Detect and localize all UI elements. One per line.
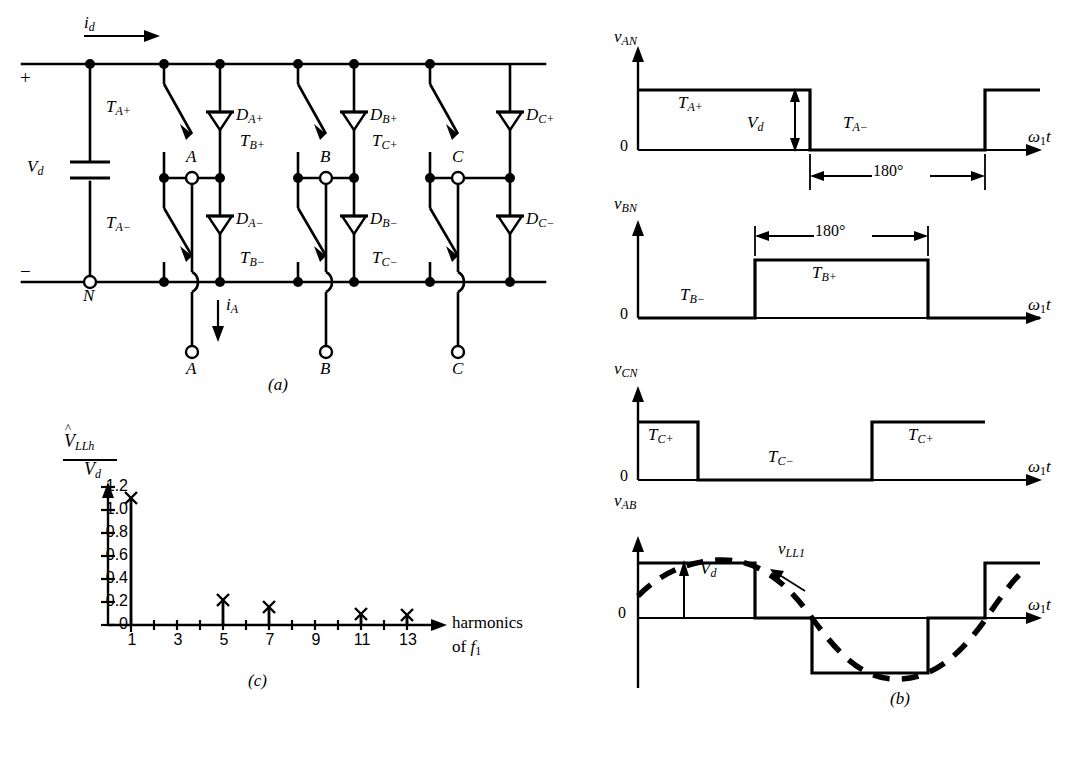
zero-label-vab: 0 xyxy=(618,605,626,621)
dimension-label-van: 180° xyxy=(873,163,903,179)
amplitude-label-vab: Vd xyxy=(700,560,716,579)
xaxis-label-vbn: ω1t xyxy=(1028,296,1051,315)
switch-label-tc-plus: TC+ xyxy=(372,132,398,151)
dc-voltage-label: Vd xyxy=(27,158,43,177)
plot-van xyxy=(632,46,1042,190)
xtick-1: 1 xyxy=(124,632,140,648)
zero-label-vcn: 0 xyxy=(620,468,628,484)
panel-caption-b: (b) xyxy=(890,690,910,707)
diode-label-dc-minus: DC− xyxy=(526,210,554,229)
diode-label-db-plus: DB+ xyxy=(370,106,398,125)
node-label-a: A xyxy=(186,148,196,165)
xtick-13: 13 xyxy=(396,632,420,648)
ylabel-vab: vAB xyxy=(614,492,636,511)
switch-label-ta-minus: TA− xyxy=(106,214,131,233)
spectrum-markers xyxy=(125,492,413,621)
dc-minus-label: − xyxy=(20,262,31,281)
node-label-c: C xyxy=(452,148,463,165)
diode-label-da-plus: DA+ xyxy=(236,106,264,125)
panel-caption-c: (c) xyxy=(248,672,267,689)
chart-ylabel-denominator: Vd xyxy=(84,460,101,480)
ytick-0.4: 0.4 xyxy=(70,570,128,586)
diode-label-dc-plus: DC+ xyxy=(526,106,554,125)
terminal-label-a: A xyxy=(186,360,196,377)
plot-vab xyxy=(632,536,1042,688)
ytick-1.0: 1.0 xyxy=(70,501,128,517)
ylabel-van: vAN xyxy=(614,28,637,47)
diode-label-db-minus: DB− xyxy=(370,210,398,229)
chart-xlabel-line1: harmonics xyxy=(452,614,523,631)
current-phase-a-label: iA xyxy=(226,296,238,315)
interval-label-tc-plus-1: TC+ xyxy=(648,426,674,445)
interval-label-tc-minus: TC− xyxy=(768,448,794,467)
xaxis-label-vab: ω1t xyxy=(1028,596,1051,615)
interval-label-tb-plus: TB+ xyxy=(812,264,837,283)
switch-label-tb-minus: TB− xyxy=(240,249,265,268)
interval-label-tb-minus: TB− xyxy=(680,286,705,305)
interval-label-ta-minus: TA− xyxy=(843,114,868,133)
zero-label-vbn: 0 xyxy=(620,306,628,322)
diode-label-da-minus: DA− xyxy=(236,210,264,229)
fundamental-label-vll1: vLL1 xyxy=(778,540,805,559)
terminal-label-b: B xyxy=(320,360,330,377)
xtick-11: 11 xyxy=(350,632,374,648)
zero-label-van: 0 xyxy=(620,138,628,154)
xtick-7: 7 xyxy=(262,632,278,648)
neutral-label: N xyxy=(83,287,94,304)
ylabel-vcn: vCN xyxy=(614,360,638,379)
ytick-0: 0 xyxy=(98,616,128,632)
interval-label-tc-plus-2: TC+ xyxy=(908,426,934,445)
switch-label-tc-minus: TC− xyxy=(372,249,398,268)
ytick-0.6: 0.6 xyxy=(70,547,128,563)
figure-root: + − Vd N id iA TA+ TA− TB+ TB− TC+ TC− D… xyxy=(0,0,1085,768)
circuit-svg xyxy=(0,0,600,400)
amplitude-label-van: Vd xyxy=(747,114,763,133)
switch-label-tb-plus: TB+ xyxy=(240,132,265,151)
switch-label-ta-plus: TA+ xyxy=(106,98,131,117)
chart-xlabel-line2: of f1 xyxy=(452,638,481,657)
ylabel-vbn: vBN xyxy=(614,195,637,214)
terminal-label-c: C xyxy=(452,360,463,377)
plot-vcn xyxy=(632,386,1042,486)
node-label-b: B xyxy=(320,148,330,165)
xaxis-label-vcn: ω1t xyxy=(1028,458,1051,477)
chart-ylabel-numerator: ^VLLh xyxy=(64,432,94,452)
xtick-9: 9 xyxy=(308,632,324,648)
xtick-5: 5 xyxy=(216,632,232,648)
ytick-0.8: 0.8 xyxy=(70,524,128,540)
panel-caption-a: (a) xyxy=(268,376,288,393)
dimension-label-vbn: 180° xyxy=(815,223,845,239)
xtick-3: 3 xyxy=(170,632,186,648)
interval-label-ta-plus: TA+ xyxy=(678,94,703,113)
ytick-0.2: 0.2 xyxy=(70,593,128,609)
dc-plus-label: + xyxy=(20,68,31,87)
current-dc-label: id xyxy=(84,14,95,33)
xaxis-label-van: ω1t xyxy=(1028,128,1051,147)
